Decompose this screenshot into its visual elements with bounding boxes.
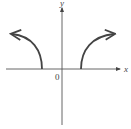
left-curve [12,34,42,69]
y-axis-label: y [59,0,64,8]
x-axis-label: x [123,64,128,74]
graph: y x 0 [0,0,131,129]
right-curve [81,34,114,69]
origin-label: 0 [55,72,60,82]
